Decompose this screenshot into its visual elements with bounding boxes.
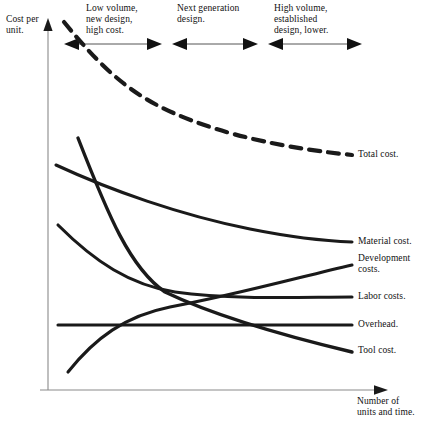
curve-label-overhead: Overhead. — [358, 319, 398, 330]
x-axis-arrowhead — [374, 385, 388, 395]
curve-label-material-cost: Material cost. — [358, 236, 412, 247]
curve-label-labor-costs: Labor costs. — [358, 291, 406, 302]
y-axis-label: Cost per unit. — [6, 14, 39, 36]
curves-group — [56, 22, 352, 372]
chart-canvas — [0, 0, 427, 429]
curve-labor-costs — [58, 225, 352, 298]
x-axis-label: Number of units and time. — [357, 396, 415, 418]
curve-material-cost — [56, 165, 352, 242]
phase-label-low-volume: Low volume, new design, high cost. — [86, 3, 138, 37]
axes-group — [40, 18, 388, 395]
curve-total-cost — [64, 22, 352, 155]
phase-2-arrow — [172, 38, 258, 50]
phase-arrows-group — [64, 38, 362, 50]
y-axis-arrowhead — [43, 18, 52, 31]
phase-3-arrow — [268, 38, 362, 50]
curve-label-development-costs: Development costs. — [358, 253, 410, 275]
curve-tool-cost — [78, 138, 352, 352]
phase-label-next-generation: Next generation design. — [177, 3, 239, 25]
curve-label-total-cost: Total cost. — [358, 149, 399, 160]
cost-per-unit-chart: Cost per unit. Number of units and time.… — [0, 0, 427, 429]
phase-label-high-volume: High volume, established design, lower. — [274, 3, 328, 37]
curve-development-costs — [68, 265, 352, 372]
curve-label-tool-cost: Tool cost. — [358, 345, 396, 356]
